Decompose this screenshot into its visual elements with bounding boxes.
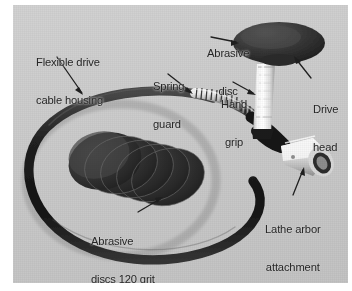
label-flexible-drive-cable-housing: Flexible drive cable housing	[36, 31, 103, 132]
label-abrasive-discs-120-grit: Abrasive discs 120 grit	[91, 210, 155, 283]
label-line: Abrasive	[91, 235, 155, 248]
label-line: attachment	[265, 261, 321, 274]
abrasive-disc-stack-part	[62, 124, 212, 214]
label-lathe-arbor-attachment-coupling: Lathe arbor attachment coupling	[265, 198, 321, 283]
label-line: Drive	[313, 103, 338, 116]
arrow-lathe-arbor-coupling	[293, 167, 305, 195]
label-line: grip	[221, 136, 247, 149]
label-line: Hand	[221, 98, 247, 111]
label-line: guard	[153, 118, 184, 131]
label-spring-guard: Spring guard	[153, 55, 184, 156]
label-line: discs 120 grit	[91, 273, 155, 283]
label-hand-grip: Hand grip	[221, 73, 247, 174]
label-line: Spring	[153, 80, 184, 93]
photograph: Flexible drive cable housing Spring guar…	[13, 5, 348, 283]
figure-root: Flexible drive cable housing Spring guar…	[0, 0, 352, 291]
label-line: Lathe arbor	[265, 223, 321, 236]
label-line: head	[313, 141, 338, 154]
label-drive-head: Drive head	[313, 78, 338, 179]
label-line: Abrasive	[207, 47, 249, 60]
label-line: Flexible drive	[36, 56, 103, 69]
label-line: cable housing	[36, 94, 103, 107]
